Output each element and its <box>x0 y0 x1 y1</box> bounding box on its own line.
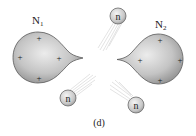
nucleus-n1: + + + + N1 <box>13 14 83 83</box>
motion-trail <box>98 22 122 51</box>
nucleus-n1-label: N1 <box>32 14 44 28</box>
neutron-top: n <box>98 8 126 51</box>
charge-plus: + <box>157 75 162 85</box>
neutron-bottom-left: n <box>60 74 96 106</box>
motion-trail <box>110 80 133 101</box>
neutron-label: n <box>116 11 121 22</box>
nucleus-n2-label: N2 <box>155 18 167 32</box>
fission-diagram: + + + + N1 + + + + N2 n <box>0 0 196 136</box>
charge-plus: + <box>137 55 142 65</box>
nucleus-n1-body <box>13 32 83 83</box>
neutron-label: n <box>66 93 71 104</box>
charge-plus: + <box>17 52 22 62</box>
neutron-bottom-right: n <box>110 80 144 113</box>
nucleus-n2-body <box>117 34 183 84</box>
nucleus-n2: + + + + N2 <box>117 18 183 85</box>
charge-plus: + <box>56 53 61 63</box>
charge-plus: + <box>177 55 182 65</box>
neutron-label: n <box>134 100 139 111</box>
charge-plus: + <box>36 73 41 83</box>
figure-caption: (d) <box>93 117 105 129</box>
charge-plus: + <box>157 35 162 45</box>
charge-plus: + <box>36 33 41 43</box>
